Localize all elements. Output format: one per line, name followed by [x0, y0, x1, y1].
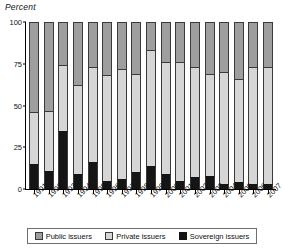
bar-column: [44, 22, 54, 189]
bar-segment-public: [44, 22, 54, 111]
legend-item-private[interactable]: Private issuers: [105, 232, 165, 241]
bar-segment-private: [73, 85, 83, 174]
y-axis-tick-label: 75: [14, 59, 22, 68]
bar-segment-private: [58, 65, 68, 130]
bar-column: [29, 22, 39, 189]
legend-label: Sovereign issuers: [190, 232, 250, 241]
bar-segment-private: [175, 62, 185, 181]
bar-segment-public: [234, 22, 244, 79]
bar-segment-public: [131, 22, 141, 74]
bar-segment-private: [102, 75, 112, 180]
bar-column: [234, 22, 244, 189]
plot-area: 0255075100: [26, 22, 276, 189]
bar-segment-private: [161, 62, 171, 174]
bar-column: [263, 22, 273, 189]
bar-segment-private: [131, 74, 141, 173]
bar-column: [102, 22, 112, 189]
bar-column: [117, 22, 127, 189]
bar-segment-private: [88, 67, 98, 162]
bar-segment-private: [44, 111, 54, 171]
bar-segment-public: [190, 22, 200, 67]
bar-column: [248, 22, 258, 189]
legend-label: Private issuers: [116, 232, 165, 241]
bar-segment-public: [117, 22, 127, 69]
bar-column: [146, 22, 156, 189]
y-axis-tick-label: 100: [9, 18, 22, 27]
bar-column: [205, 22, 215, 189]
bar-segment-public: [205, 22, 215, 74]
stacked-bar-chart: Percent 0255075100 199119921993199419951…: [0, 0, 284, 250]
bar-segment-public: [219, 22, 229, 72]
bar-segment-private: [219, 72, 229, 184]
legend-swatch-private-icon: [105, 232, 113, 240]
bar-group: [26, 22, 276, 189]
bar-column: [88, 22, 98, 189]
bar-segment-public: [29, 22, 39, 112]
bar-segment-public: [248, 22, 258, 67]
y-axis-tick-label: 25: [14, 143, 22, 152]
x-axis-labels: 1991199219931994199519961997199819992000…: [26, 193, 276, 219]
bar-segment-public: [102, 22, 112, 75]
bar-segment-sovereign: [58, 131, 68, 189]
bar-segment-public: [161, 22, 171, 62]
y-axis-tick-label: 50: [14, 101, 22, 110]
bar-column: [175, 22, 185, 189]
bar-segment-public: [58, 22, 68, 65]
legend-swatch-sovereign-icon: [179, 232, 187, 240]
bar-column: [73, 22, 83, 189]
chart-legend: Public issuersPrivate issuersSovereign i…: [27, 228, 257, 244]
bar-segment-private: [234, 79, 244, 183]
bar-segment-public: [175, 22, 185, 62]
bar-segment-private: [146, 50, 156, 165]
bar-segment-private: [190, 67, 200, 177]
bar-column: [131, 22, 141, 189]
bar-segment-public: [263, 22, 273, 67]
legend-item-public[interactable]: Public issuers: [35, 232, 92, 241]
chart-axis-title: Percent: [5, 2, 36, 12]
legend-swatch-public-icon: [35, 232, 43, 240]
bar-segment-private: [29, 112, 39, 164]
bar-segment-public: [88, 22, 98, 67]
legend-label: Public issuers: [46, 232, 92, 241]
bar-column: [190, 22, 200, 189]
bar-column: [219, 22, 229, 189]
bar-segment-public: [146, 22, 156, 50]
y-axis-tick-label: 0: [18, 185, 22, 194]
bar-column: [58, 22, 68, 189]
legend-item-sovereign[interactable]: Sovereign issuers: [179, 232, 250, 241]
bar-segment-private: [205, 74, 215, 176]
bar-segment-private: [248, 67, 258, 184]
bar-column: [161, 22, 171, 189]
bar-segment-public: [73, 22, 83, 85]
bar-segment-private: [263, 67, 273, 184]
bar-segment-private: [117, 69, 127, 179]
